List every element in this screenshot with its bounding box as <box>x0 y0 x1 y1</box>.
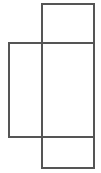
rectangles-diagram <box>0 0 101 173</box>
horizontal-rectangle <box>9 43 94 137</box>
figure-canvas <box>0 0 101 173</box>
vertical-rectangle <box>42 4 94 168</box>
